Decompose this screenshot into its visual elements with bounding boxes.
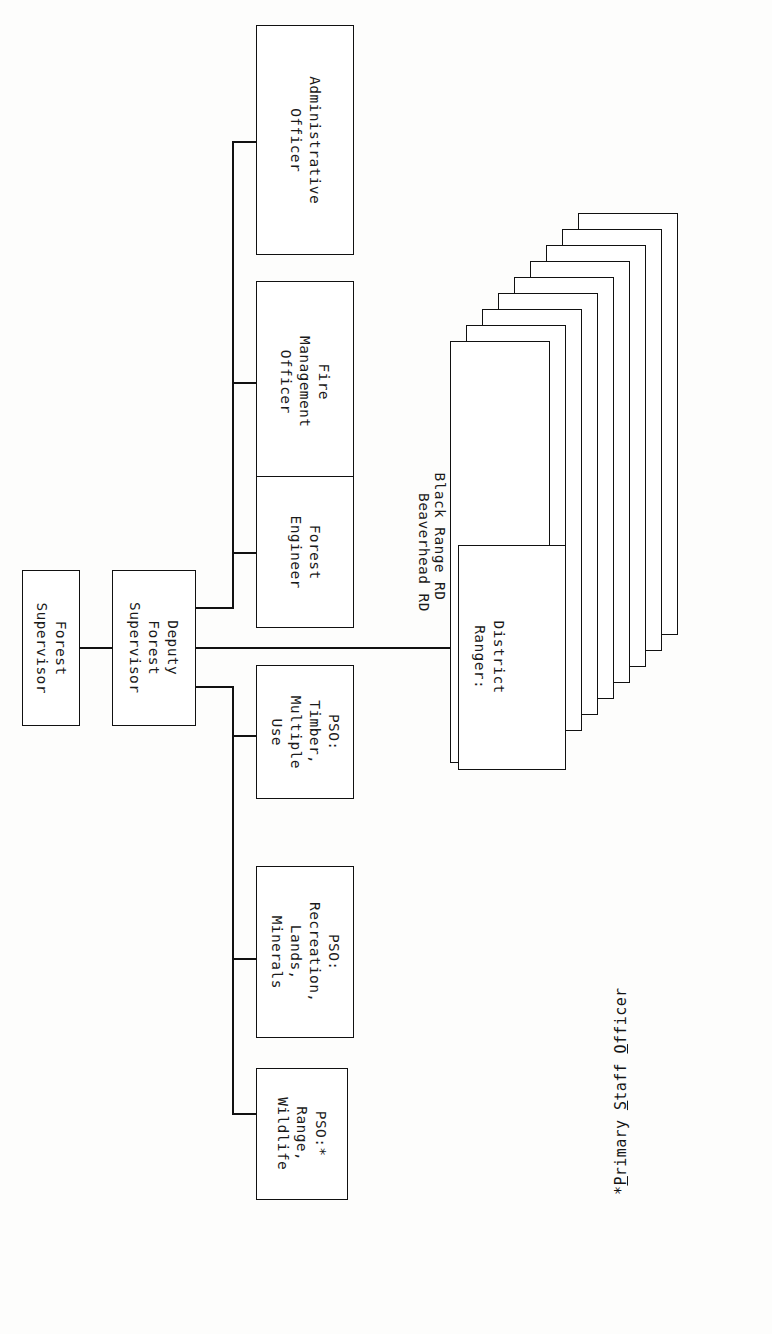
footnote-underline-s: S — [612, 1101, 630, 1110]
node-pso-recreation: PSO: Recreation, Lands, Minerals — [256, 866, 354, 1038]
node-pso-range-label: PSO:* Range, Wildlife — [273, 1097, 330, 1170]
node-administrative-officer: Administrative Officer — [256, 25, 354, 255]
node-district-ranger-label: District Ranger: — [470, 621, 508, 694]
edge-trunk-to-pso-timber — [232, 735, 256, 737]
node-district-ranger: District Ranger: — [458, 545, 566, 770]
edge-deputy-stub-lower — [196, 686, 234, 688]
trunk-upper — [232, 141, 234, 609]
node-fire-management-officer-label: Fire Management Officer — [276, 336, 333, 427]
node-deputy-forest-supervisor-label: Deputy Forest Supervisor — [125, 602, 182, 693]
node-pso-recreation-label: PSO: Recreation, Lands, Minerals — [267, 902, 344, 1002]
node-pso-timber-label: PSO: Timber, Multiple Use — [267, 695, 344, 768]
edge-supervisor-to-deputy — [80, 647, 112, 649]
edge-trunk-to-forest-engineer — [232, 552, 256, 554]
node-administrative-officer-label: Administrative Officer — [286, 76, 324, 204]
edge-deputy-stub-upper — [196, 607, 234, 609]
footnote-underline-p: P — [612, 1176, 630, 1185]
node-fire-management-officer: Fire Management Officer — [256, 281, 354, 483]
edge-trunk-to-pso-recreation — [232, 958, 256, 960]
node-pso-timber: PSO: Timber, Multiple Use — [256, 665, 354, 799]
edge-trunk-to-fire-management — [232, 382, 256, 384]
chart-page: Forest Supervisor Deputy Forest Supervis… — [0, 0, 772, 1334]
node-forest-supervisor-label: Forest Supervisor — [32, 602, 70, 693]
node-forest-engineer-label: Forest Engineer — [286, 515, 324, 588]
district-card-beaverhead-label: Beaverhead RD — [415, 427, 434, 677]
footnote-primary-staff-officer: *Primary Staff Officer — [612, 987, 630, 1195]
trunk-lower — [232, 686, 234, 1114]
node-forest-supervisor: Forest Supervisor — [22, 570, 80, 726]
edge-trunk-to-administrative — [232, 141, 256, 143]
node-forest-engineer: Forest Engineer — [256, 476, 354, 628]
node-deputy-forest-supervisor: Deputy Forest Supervisor — [112, 570, 196, 726]
node-pso-range: PSO:* Range, Wildlife — [256, 1068, 348, 1200]
footnote-underline-o: O — [612, 1044, 630, 1053]
edge-trunk-to-pso-range — [232, 1113, 256, 1115]
